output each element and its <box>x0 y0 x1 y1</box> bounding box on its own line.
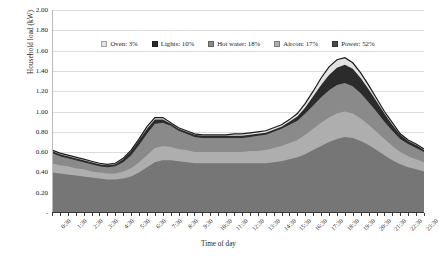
x-axis-tick-mark <box>226 213 227 216</box>
x-axis-tick-label: 1:30 <box>75 217 88 230</box>
legend-item: Aircon: 17% <box>274 40 318 47</box>
chart-legend: Oven: 3%Lights: 10%Hot water: 18%Aircon:… <box>52 40 424 47</box>
x-axis-tick-label: 8:30 <box>186 217 199 230</box>
x-axis-title: Time of day <box>0 240 437 248</box>
x-axis-tick-mark <box>84 213 85 216</box>
y-axis-tick-label: 0.40 <box>4 168 48 176</box>
x-axis-tick-mark <box>163 213 164 216</box>
x-axis-tick-label: 18:30 <box>345 217 360 232</box>
x-axis-tick-mark <box>218 213 219 216</box>
x-axis-tick-mark <box>202 213 203 216</box>
x-axis-tick-mark <box>345 213 346 216</box>
legend-label: Aircon: 17% <box>283 40 318 47</box>
x-axis-tick-mark <box>329 213 330 216</box>
x-axis-tick-mark <box>282 213 283 216</box>
y-axis-tick-label: - <box>4 209 48 217</box>
x-axis-tick-label: 6:30 <box>154 217 167 230</box>
x-axis-tick-mark <box>139 213 140 216</box>
x-axis-tick-mark <box>258 213 259 216</box>
x-axis-tick-label: 4:30 <box>123 217 136 230</box>
x-axis-tick-mark <box>115 213 116 216</box>
x-axis-tick-label: 10:30 <box>218 217 233 232</box>
x-axis-tick-label: 13:30 <box>266 217 281 232</box>
x-axis-tick-mark <box>92 213 93 216</box>
x-axis-tick-mark <box>234 213 235 216</box>
x-axis-tick-label: 23:30 <box>424 217 439 232</box>
x-axis-tick-label: 7:30 <box>170 217 183 230</box>
x-axis-tick-mark <box>289 213 290 216</box>
x-axis-tick-mark <box>392 213 393 216</box>
legend-item: Power: 52% <box>332 40 374 47</box>
x-axis-tick-mark <box>52 213 53 216</box>
x-axis-tick-mark <box>250 213 251 216</box>
x-axis-tick-mark <box>123 213 124 216</box>
x-axis-tick-mark <box>76 213 77 216</box>
x-axis-tick-label: 20:30 <box>377 217 392 232</box>
y-axis-tick-label: 0.80 <box>4 128 48 136</box>
legend-swatch-icon <box>152 41 158 47</box>
x-axis-tick-mark <box>424 213 425 216</box>
x-axis-tick-mark <box>242 213 243 216</box>
legend-label: Hot water: 18% <box>217 40 260 47</box>
x-axis-tick-label: 2:30 <box>91 217 104 230</box>
x-axis-tick-label: 11:30 <box>234 217 249 232</box>
x-axis-tick-mark <box>416 213 417 216</box>
y-axis-tick-label: 1.80 <box>4 26 48 34</box>
y-axis-tick-labels: -0.200.400.600.801.001.201.401.601.802.0… <box>0 10 48 213</box>
y-axis-tick-label: 2.00 <box>4 6 48 14</box>
x-axis-tick-label: 17:30 <box>329 217 344 232</box>
x-axis-tick-mark <box>171 213 172 216</box>
x-axis-tick-mark <box>369 213 370 216</box>
x-axis-tick-mark <box>187 213 188 216</box>
y-axis-tick-label: 1.60 <box>4 47 48 55</box>
legend-label: Lights: 10% <box>161 40 194 47</box>
x-axis-tick-mark <box>337 213 338 216</box>
x-axis-tick-mark <box>384 213 385 216</box>
x-axis-tick-label: 3:30 <box>107 217 120 230</box>
y-axis-tick-label: 0.20 <box>4 189 48 197</box>
x-axis-tick-mark <box>305 213 306 216</box>
x-axis-tick-mark <box>274 213 275 216</box>
y-axis-tick-label: 1.20 <box>4 87 48 95</box>
x-axis-tick-label: 0:30 <box>59 217 72 230</box>
x-axis-tick-mark <box>353 213 354 216</box>
x-axis-tick-mark <box>155 213 156 216</box>
x-axis-tick-mark <box>194 213 195 216</box>
legend-swatch-icon <box>274 41 280 47</box>
y-axis-tick-label: 1.40 <box>4 67 48 75</box>
legend-label: Oven: 3% <box>110 40 137 47</box>
legend-item: Hot water: 18% <box>208 40 260 47</box>
x-axis-tick-label: 9:30 <box>202 217 215 230</box>
legend-swatch-icon <box>208 41 214 47</box>
x-axis-tick-label: 19:30 <box>361 217 376 232</box>
x-axis-tick-mark <box>60 213 61 216</box>
x-axis-tick-label: 5:30 <box>138 217 151 230</box>
x-axis-tick-label: 15:30 <box>298 217 313 232</box>
x-axis-tick-mark <box>131 213 132 216</box>
x-axis-tick-label: 16:30 <box>313 217 328 232</box>
legend-swatch-icon <box>101 41 107 47</box>
x-axis-tick-mark <box>321 213 322 216</box>
x-axis-tick-label: 14:30 <box>282 217 297 232</box>
x-axis-tick-mark <box>408 213 409 216</box>
legend-swatch-icon <box>332 41 338 47</box>
x-axis-tick-label: 21:30 <box>393 217 408 232</box>
legend-label: Power: 52% <box>341 40 374 47</box>
x-axis-tick-mark <box>99 213 100 216</box>
x-axis-tick-mark <box>313 213 314 216</box>
x-axis-tick-mark <box>266 213 267 216</box>
x-axis-tick-mark <box>297 213 298 216</box>
y-axis-tick-label: 0.60 <box>4 148 48 156</box>
x-axis-tick-mark <box>210 213 211 216</box>
x-axis-tick-mark <box>179 213 180 216</box>
legend-item: Oven: 3% <box>101 40 137 47</box>
y-axis-tick-label: 1.00 <box>4 108 48 116</box>
x-axis-tick-mark <box>68 213 69 216</box>
x-axis-tick-mark <box>361 213 362 216</box>
x-axis-tick-mark <box>377 213 378 216</box>
legend-item: Lights: 10% <box>152 40 194 47</box>
x-axis-tick-label: 12:30 <box>250 217 265 232</box>
x-axis-tick-mark <box>147 213 148 216</box>
x-axis-tick-mark <box>400 213 401 216</box>
